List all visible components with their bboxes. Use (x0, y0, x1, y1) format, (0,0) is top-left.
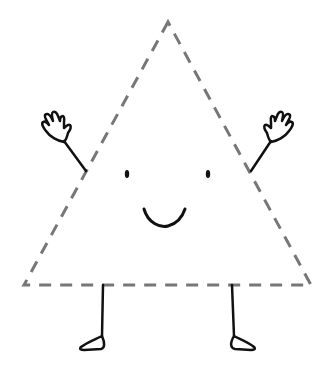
right-eye (206, 170, 210, 178)
right-hand-icon (264, 112, 293, 142)
left-hand-icon (42, 112, 71, 142)
left-foot-icon (80, 336, 104, 350)
triangle-body (24, 22, 311, 285)
smile (144, 209, 185, 226)
right-leg (231, 285, 255, 350)
left-eye (125, 170, 129, 178)
right-foot-icon (231, 336, 255, 350)
left-arm (42, 112, 86, 171)
left-leg (80, 285, 104, 350)
face (125, 170, 210, 226)
illustration-canvas: Cartoon triangle character with dashed o… (0, 0, 330, 379)
right-arm (251, 112, 293, 171)
triangle-character (0, 0, 330, 379)
